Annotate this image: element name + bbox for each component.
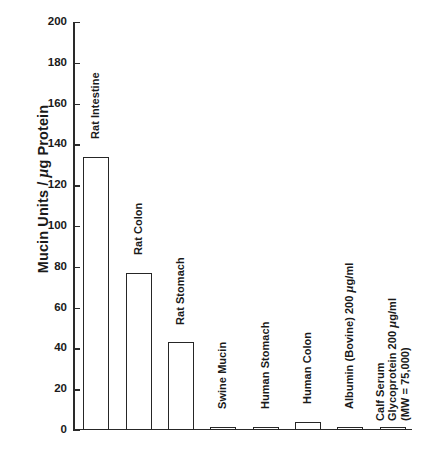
bar-label-line: Swine Mucin: [218, 342, 230, 409]
mu-symbol: μ: [343, 285, 357, 292]
bar-label-line: Glycoprotein 200 μg/ml: [387, 298, 399, 421]
y-axis-tick-label: 0: [61, 423, 67, 435]
y-axis-tick-label: 180: [48, 56, 67, 68]
bar-label: Human Stomach: [266, 322, 278, 409]
bar-label-line: Human Colon: [302, 332, 314, 404]
y-axis-tick-mark: [73, 430, 80, 431]
bar-label-line: Rat Colon: [133, 203, 145, 255]
bar-label: Human Colon: [308, 332, 320, 404]
y-axis-tick-label: 60: [54, 301, 67, 313]
bar-calf-serum-glycoprotein-200-g-ml-mw-75-000: [380, 427, 406, 431]
bar-albumin-bovine-200-g-ml: [337, 427, 363, 431]
bar-label: Rat Intestine: [96, 72, 108, 139]
y-axis-tick-label: 100: [48, 219, 67, 231]
bar-human-colon: [295, 422, 321, 430]
y-axis-tick-label: 200: [48, 15, 67, 27]
mu-symbol: μ: [385, 320, 399, 327]
bar-swine-mucin: [210, 427, 236, 431]
bar-label: Rat Colon: [139, 203, 151, 255]
bar-rat-intestine: [83, 157, 109, 430]
y-axis-tick-label: 40: [54, 341, 67, 353]
plot-area: 020406080100120140160180200 Rat Intestin…: [73, 22, 412, 430]
bar-rat-colon: [126, 273, 152, 430]
bar-label-line: Calf Serum: [375, 362, 387, 421]
y-axis-tick-label: 20: [54, 382, 67, 394]
bars-group: Rat IntestineRat ColonRat StomachSwine M…: [73, 22, 412, 430]
bar-chart: Mucin Units / μg Protein 020406080100120…: [0, 0, 427, 450]
bar-label: Swine Mucin: [223, 342, 235, 409]
bar-label-line: Rat Stomach: [175, 257, 187, 325]
bar-label-line: Human Stomach: [260, 322, 272, 409]
y-axis-tick-label: 120: [48, 178, 67, 190]
bar-label-line: Rat Intestine: [90, 72, 102, 139]
y-axis-tick-label: 140: [48, 137, 67, 149]
bar-rat-stomach: [168, 342, 194, 430]
y-axis-title-mu-symbol: μ: [34, 169, 51, 178]
bar-label: Albumin (Bovine) 200 μg/ml: [350, 263, 362, 409]
y-axis-tick-label: 160: [48, 97, 67, 109]
bar-label: Rat Stomach: [181, 257, 193, 325]
bar-human-stomach: [253, 427, 279, 431]
bar-label-line: (MW = 75,000): [400, 347, 412, 421]
bar-label-line: Albumin (Bovine) 200 μg/ml: [345, 263, 357, 409]
y-axis-tick-label: 80: [54, 260, 67, 272]
